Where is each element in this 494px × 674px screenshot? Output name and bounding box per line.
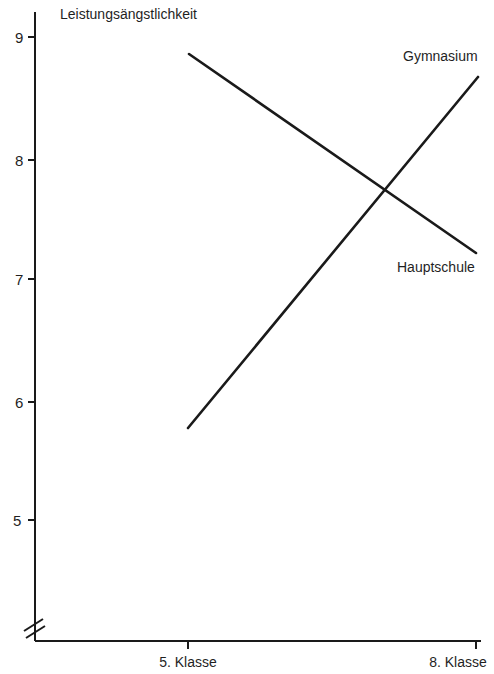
y-ticks [28, 37, 35, 520]
xtick-label-5-klasse: 5. Klasse [159, 654, 217, 670]
ytick-label-6: 6 [15, 394, 23, 411]
series-line-hauptschule [189, 54, 476, 253]
chart-canvas: 9 8 7 6 5 Leistungsängstlichkeit 5. Klas… [0, 0, 494, 674]
ytick-label-9: 9 [15, 29, 23, 46]
series-label-gymnasium: Gymnasium [403, 48, 478, 64]
y-axis-title: Leistungsängstlichkeit [60, 6, 197, 22]
ytick-label-7: 7 [15, 271, 23, 288]
ytick-label-8: 8 [15, 152, 23, 169]
ytick-label-5: 5 [13, 512, 21, 529]
series-line-gymnasium [188, 77, 478, 428]
xtick-label-8-klasse: 8. Klasse [429, 654, 487, 670]
series-label-hauptschule: Hauptschule [397, 259, 475, 275]
x-ticks [188, 641, 476, 649]
